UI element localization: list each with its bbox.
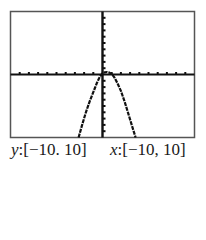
series-line-graph xyxy=(79,72,136,138)
x-window-range: :[−10, 10] xyxy=(118,140,186,159)
y-window-label: y:[−10. 10] xyxy=(11,140,87,160)
y-window-var: y xyxy=(11,140,19,159)
y-window-range: :[−10. 10] xyxy=(19,140,87,159)
curve-group xyxy=(79,72,136,138)
x-window-var: x xyxy=(110,140,118,159)
x-window-label: x:[−10, 10] xyxy=(110,140,186,160)
